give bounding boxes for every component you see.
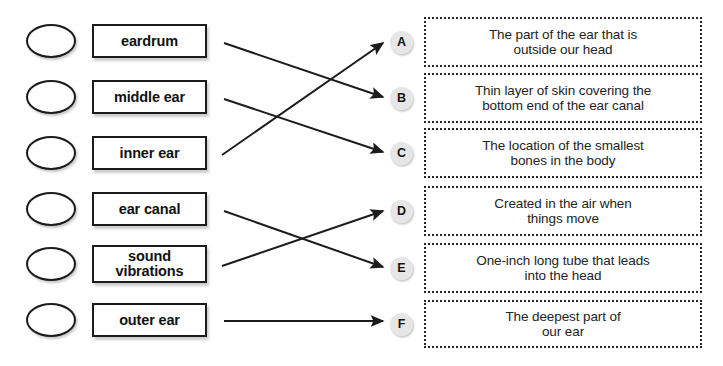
term-inner-ear-label: inner ear	[120, 146, 180, 161]
def-b-text: Thin layer of skin covering the bottom e…	[475, 83, 651, 113]
def-d-box[interactable]: Created in the air when things move	[424, 186, 702, 236]
term-middle-ear-box[interactable]: middle ear	[92, 80, 207, 114]
term-row: middle ear	[0, 80, 215, 114]
link-eardrum-to-b	[224, 43, 383, 97]
term-eardrum-label: eardrum	[121, 34, 178, 49]
def-b-badge: B	[390, 87, 413, 110]
term-sound-vibrations-label: sound vibrations	[116, 249, 184, 279]
term-row: ear canal	[0, 192, 215, 226]
answer-bubble-eardrum[interactable]	[26, 24, 76, 58]
answer-bubble-sound-vibrations[interactable]	[26, 247, 76, 281]
term-outer-ear-label: outer ear	[119, 313, 180, 328]
def-f-text: The deepest part of our ear	[505, 309, 620, 339]
answer-bubble-ear-canal[interactable]	[26, 192, 76, 226]
term-ear-canal-label: ear canal	[119, 202, 181, 217]
def-e-badge: E	[390, 257, 413, 280]
answer-bubble-inner-ear[interactable]	[26, 136, 76, 170]
def-c-text: The location of the smallest bones in th…	[482, 138, 644, 168]
term-row: sound vibrations	[0, 245, 215, 283]
def-f-badge: F	[390, 313, 413, 336]
term-outer-ear-box[interactable]: outer ear	[92, 303, 207, 337]
def-a-box[interactable]: The part of the ear that is outside our …	[424, 17, 702, 67]
term-inner-ear-box[interactable]: inner ear	[92, 136, 207, 170]
def-c-badge: C	[390, 142, 413, 165]
term-middle-ear-label: middle ear	[114, 90, 185, 105]
answer-bubble-outer-ear[interactable]	[26, 303, 76, 337]
term-eardrum-box[interactable]: eardrum	[92, 24, 207, 58]
link-inner-ear-to-a	[222, 43, 383, 155]
term-sound-vibrations-box[interactable]: sound vibrations	[92, 245, 207, 283]
link-middle-ear-to-c	[224, 99, 383, 152]
def-b-box[interactable]: Thin layer of skin covering the bottom e…	[424, 73, 702, 123]
def-a-badge: A	[390, 31, 413, 54]
def-c-box[interactable]: The location of the smallest bones in th…	[424, 128, 702, 178]
link-ear-canal-to-e	[224, 211, 383, 267]
def-e-text: One-inch long tube that leads into the h…	[476, 253, 649, 283]
term-row: eardrum	[0, 24, 215, 58]
term-ear-canal-box[interactable]: ear canal	[92, 192, 207, 226]
answer-bubble-middle-ear[interactable]	[26, 80, 76, 114]
def-d-badge: D	[390, 200, 413, 223]
def-e-box[interactable]: One-inch long tube that leads into the h…	[424, 243, 702, 293]
matching-worksheet: eardrummiddle earinner earear canalsound…	[0, 0, 723, 366]
link-sound-vibrations-to-d	[222, 211, 383, 266]
term-row: inner ear	[0, 136, 215, 170]
term-row: outer ear	[0, 303, 215, 337]
def-a-text: The part of the ear that is outside our …	[489, 27, 637, 57]
def-f-box[interactable]: The deepest part of our ear	[424, 300, 702, 348]
def-d-text: Created in the air when things move	[494, 196, 631, 226]
